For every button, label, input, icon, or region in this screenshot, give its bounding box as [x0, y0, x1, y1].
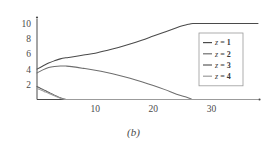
legend: z = 1z = 2z = 3z = 4: [199, 33, 243, 86]
series-line: [37, 87, 258, 100]
line-chart: 246810 102030 z = 1z = 2z = 3z = 4: [0, 0, 267, 126]
series-line: [37, 88, 258, 99]
legend-label: z = 1: [214, 38, 231, 47]
y-tick-labels: 246810: [22, 19, 32, 90]
y-tick-label: 2: [26, 80, 31, 90]
x-axis-arrow-dot: [258, 98, 260, 100]
x-tick-label: 30: [207, 104, 217, 114]
figure-caption: (b): [0, 126, 267, 138]
legend-label: z = 3: [214, 61, 231, 70]
y-tick-label: 10: [22, 19, 32, 29]
y-axis-arrow-dot: [36, 16, 38, 18]
x-tick-label: 10: [90, 104, 100, 114]
legend-label: z = 2: [214, 50, 231, 59]
y-tick-label: 8: [26, 34, 31, 44]
figure-panel: 246810 102030 z = 1z = 2z = 3z = 4 (b): [0, 0, 267, 148]
legend-label: z = 4: [214, 72, 231, 81]
x-tick-label: 20: [149, 104, 159, 114]
y-tick-label: 4: [26, 65, 31, 75]
y-tick-label: 6: [26, 49, 31, 59]
x-tick-labels: 102030: [90, 104, 216, 114]
